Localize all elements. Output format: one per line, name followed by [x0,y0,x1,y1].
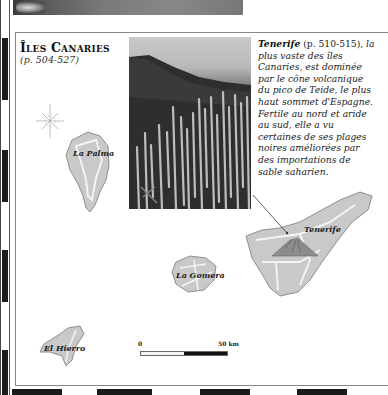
label-la-gomera: La Gomera [176,270,225,280]
scale-start-label: 0 [138,340,142,347]
label-tenerife: Tenerife [304,224,341,234]
island-tenerife [246,192,372,296]
scale-end-label: 50 km [218,340,239,347]
scale-bar-graphic [140,351,228,356]
label-la-palma: La Palma [73,148,114,158]
label-el-hierro: El Hierro [44,343,85,353]
island-la-palma [66,132,109,212]
compass-rose-icon [36,104,64,138]
